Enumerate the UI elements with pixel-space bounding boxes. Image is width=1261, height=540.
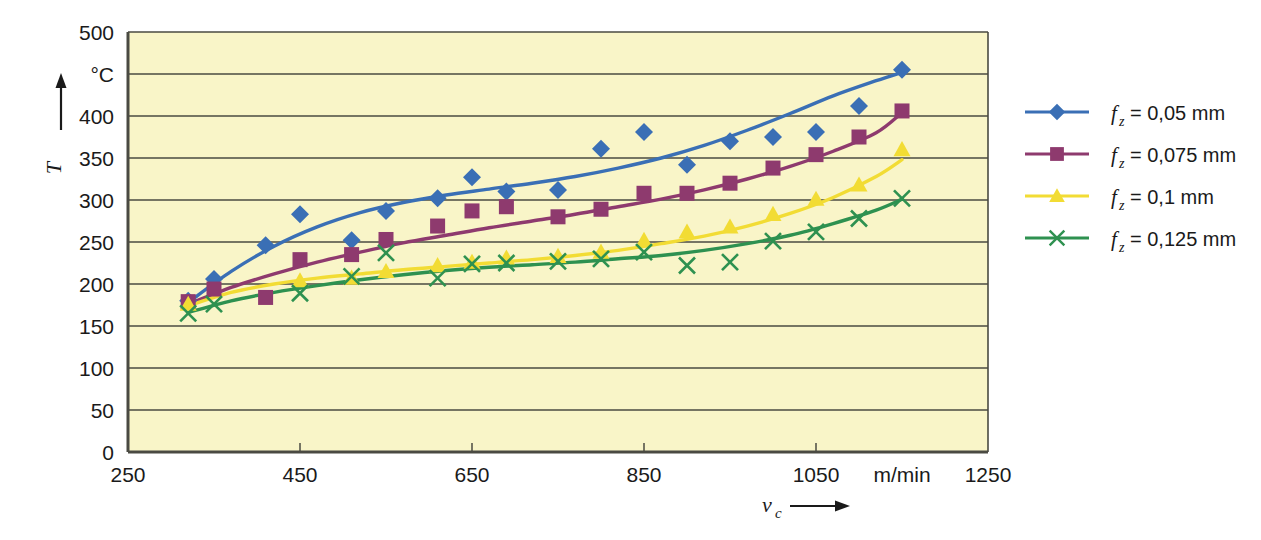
x-axis-title-subscript: c xyxy=(775,505,782,521)
y-tick-label: 50 xyxy=(91,399,114,422)
legend-symbol-subscript: z xyxy=(1118,198,1125,213)
legend-item-label: = 0,05 mm xyxy=(1130,102,1225,124)
data-point xyxy=(379,232,394,247)
x-tick-label: 450 xyxy=(282,463,317,486)
data-point xyxy=(852,130,867,145)
y-tick-label: 350 xyxy=(79,147,114,170)
data-point xyxy=(499,199,514,214)
x-tick-label: 1050 xyxy=(793,463,840,486)
x-tick-label: 250 xyxy=(110,463,145,486)
x-tick-label: 850 xyxy=(626,463,661,486)
data-point xyxy=(465,203,480,218)
x-axis-title-symbol: v xyxy=(762,492,772,517)
legend-symbol-subscript: z xyxy=(1118,240,1125,255)
y-tick-label: 300 xyxy=(79,189,114,212)
data-point xyxy=(258,290,273,305)
data-point xyxy=(551,209,566,224)
y-tick-label: 400 xyxy=(79,105,114,128)
data-point xyxy=(680,186,695,201)
data-point xyxy=(293,252,308,267)
data-point xyxy=(344,247,359,262)
y-tick-label: 500 xyxy=(79,21,114,44)
legend-item-label: = 0,125 mm xyxy=(1130,228,1236,250)
legend-marker-square-icon xyxy=(1050,147,1064,161)
legend-symbol-subscript: z xyxy=(1118,156,1125,171)
chart-figure: 500°C400350300250200150100500 2504506508… xyxy=(0,0,1261,540)
legend-item-label: = 0,075 mm xyxy=(1130,144,1236,166)
data-point xyxy=(895,103,910,118)
data-point xyxy=(594,202,609,217)
x-axis-unit-label: m/min xyxy=(873,463,930,486)
data-point xyxy=(637,186,652,201)
data-point xyxy=(766,161,781,176)
y-tick-label: °C xyxy=(90,63,114,86)
data-point xyxy=(723,176,738,191)
temperature-vs-cutting-speed-chart: 500°C400350300250200150100500 2504506508… xyxy=(0,0,1261,540)
legend-item-label: = 0,1 mm xyxy=(1130,186,1214,208)
x-tick-label: 650 xyxy=(454,463,489,486)
legend-symbol-subscript: z xyxy=(1118,114,1125,129)
data-point xyxy=(809,147,824,162)
y-tick-label: 0 xyxy=(102,441,114,464)
data-point xyxy=(207,282,222,297)
x-tick-label: 1250 xyxy=(965,463,1012,486)
data-point xyxy=(430,219,445,234)
y-tick-label: 200 xyxy=(79,273,114,296)
y-tick-label: 250 xyxy=(79,231,114,254)
y-tick-label: 100 xyxy=(79,357,114,380)
y-tick-label: 150 xyxy=(79,315,114,338)
y-axis-title-symbol: T xyxy=(41,160,66,174)
